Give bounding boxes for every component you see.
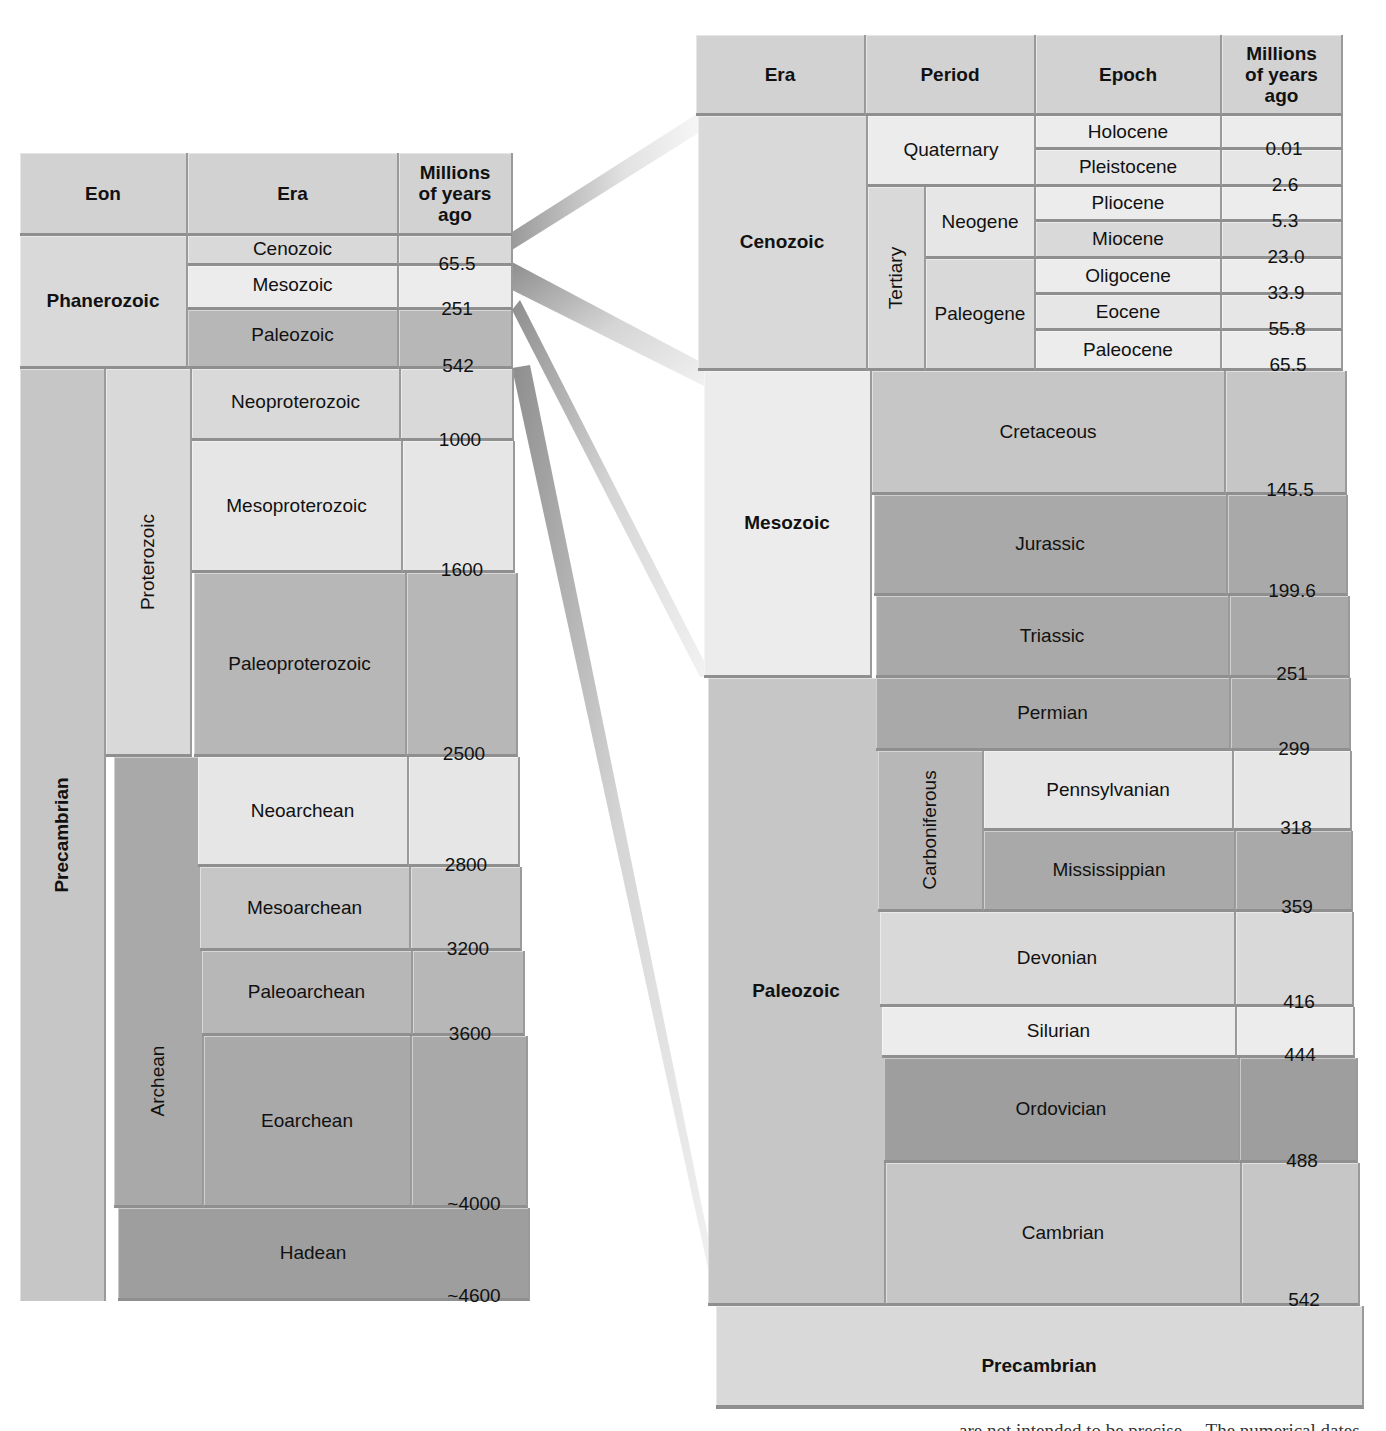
mya-cretaceous — [1226, 371, 1347, 495]
boundary-3600: 3600 — [449, 1023, 491, 1045]
period-carboniferous: Carboniferous — [878, 751, 984, 912]
epoch-holocene-label: Holocene — [1088, 121, 1168, 143]
period-mississippian-label: Mississippian — [1053, 859, 1166, 881]
header-mya-right-label: Millions of years ago — [1237, 43, 1327, 106]
period-jurassic-label: Jurassic — [1015, 533, 1085, 555]
period-permian-label: Permian — [1017, 702, 1088, 724]
mya-cambrian — [1242, 1163, 1360, 1306]
epoch-eocene-label: Eocene — [1096, 301, 1160, 323]
era-paleozoic-right: Paleozoic — [708, 678, 886, 1306]
caption-text: …are not intended to be precise… The num… — [940, 1420, 1360, 1431]
era-cenozoic-right-label: Cenozoic — [740, 231, 824, 253]
era-eoarchean: Eoarchean — [204, 1036, 412, 1208]
subeon-archean: Archean — [114, 757, 204, 1208]
boundary-318: 318 — [1280, 817, 1312, 839]
boundary-444: 444 — [1284, 1044, 1316, 1066]
boundary-1000: 1000 — [439, 429, 481, 451]
mya-ordovician — [1240, 1058, 1358, 1163]
era-cenozoic: Cenozoic — [188, 236, 399, 266]
header-period-label: Period — [920, 64, 979, 85]
boundary-65-5-right: 65.5 — [1270, 354, 1307, 376]
era-neoarchean: Neoarchean — [198, 757, 409, 867]
era-cenozoic-label: Cenozoic — [253, 238, 332, 260]
period-neogene: Neogene — [926, 187, 1036, 259]
era-neoproterozoic-label: Neoproterozoic — [231, 391, 360, 413]
period-cretaceous: Cretaceous — [872, 371, 1226, 495]
era-paleozoic-label: Paleozoic — [251, 324, 333, 346]
header-period: Period — [866, 35, 1036, 116]
era-mesozoic-label: Mesozoic — [252, 274, 332, 296]
era-mesozoic: Mesozoic — [188, 266, 399, 310]
period-cambrian-label: Cambrian — [1022, 1222, 1104, 1244]
era-paleoproterozoic-label: Paleoproterozoic — [228, 653, 371, 675]
eon-phanerozoic: Phanerozoic — [20, 236, 188, 369]
epoch-pliocene-label: Pliocene — [1092, 192, 1165, 214]
boundary-145-5: 145.5 — [1266, 479, 1314, 501]
era-mesozoic-right: Mesozoic — [704, 371, 872, 678]
mya-paleoproterozoic — [407, 573, 518, 757]
header-mya-label: Millions of years ago — [410, 162, 500, 225]
period-neogene-label: Neogene — [941, 211, 1018, 233]
period-jurassic: Jurassic — [874, 495, 1228, 596]
eon-precambrian: Precambrian — [20, 369, 106, 1301]
period-devonian-label: Devonian — [1017, 947, 1097, 969]
boundary-488: 488 — [1286, 1150, 1318, 1172]
header-epoch: Epoch — [1036, 35, 1222, 116]
epoch-paleocene: Paleocene — [1036, 331, 1222, 371]
era-paleozoic: Paleozoic — [188, 310, 399, 369]
eon-phanerozoic-label: Phanerozoic — [47, 290, 160, 312]
era-paleoproterozoic: Paleoproterozoic — [194, 573, 407, 757]
boundary-542-right: 542 — [1288, 1289, 1320, 1311]
header-era-right-label: Era — [765, 64, 796, 85]
boundary-0-01: 0.01 — [1266, 138, 1303, 160]
era-paleozoic-right-label: Paleozoic — [752, 980, 840, 1002]
boundary-2800: 2800 — [445, 854, 487, 876]
subeon-archean-label: Archean — [147, 1046, 169, 1117]
boundary-55-8: 55.8 — [1269, 318, 1306, 340]
period-paleogene-label: Paleogene — [935, 303, 1026, 325]
period-triassic: Triassic — [876, 596, 1230, 678]
era-mesoarchean-label: Mesoarchean — [247, 897, 362, 919]
boundary-23-0: 23.0 — [1268, 246, 1305, 268]
period-ordovician: Ordovician — [884, 1058, 1240, 1163]
era-mesoproterozoic-label: Mesoproterozoic — [226, 495, 366, 517]
epoch-miocene-label: Miocene — [1092, 228, 1164, 250]
caption-fragment: …are not intended to be precise… The num… — [940, 1420, 1360, 1431]
era-mesoproterozoic: Mesoproterozoic — [192, 441, 403, 573]
header-era-right: Era — [696, 35, 866, 116]
era-mesozoic-right-label: Mesozoic — [744, 512, 830, 534]
mya-eoarchean — [412, 1036, 528, 1208]
era-paleoarchean-label: Paleoarchean — [248, 981, 365, 1003]
period-quaternary-label: Quaternary — [903, 139, 998, 161]
period-silurian-label: Silurian — [1027, 1020, 1090, 1042]
period-pennsylvanian-label: Pennsylvanian — [1046, 779, 1170, 801]
boundary-2500: 2500 — [443, 743, 485, 765]
header-eon-label: Eon — [85, 183, 121, 204]
era-cenozoic-right: Cenozoic — [698, 116, 868, 371]
period-tertiary-label: Tertiary — [885, 246, 907, 308]
header-eon: Eon — [20, 153, 188, 236]
boundary-3200: 3200 — [447, 938, 489, 960]
header-era: Era — [188, 153, 399, 236]
boundary-4600: ~4600 — [447, 1285, 500, 1307]
epoch-oligocene-label: Oligocene — [1085, 265, 1171, 287]
boundary-251: 251 — [441, 298, 473, 320]
period-devonian: Devonian — [880, 912, 1236, 1007]
header-era-label: Era — [277, 183, 308, 204]
boundary-1600: 1600 — [441, 559, 483, 581]
boundary-359: 359 — [1281, 896, 1313, 918]
epoch-paleocene-label: Paleocene — [1083, 339, 1173, 361]
epoch-pleistocene-label: Pleistocene — [1079, 156, 1177, 178]
epoch-miocene: Miocene — [1036, 222, 1222, 259]
period-paleogene: Paleogene — [926, 259, 1036, 371]
era-neoarchean-label: Neoarchean — [251, 800, 355, 822]
period-cambrian: Cambrian — [886, 1163, 1242, 1306]
mya-mesoproterozoic — [403, 441, 515, 573]
period-triassic-label: Triassic — [1020, 625, 1085, 647]
period-mississippian: Mississippian — [984, 831, 1236, 912]
period-cretaceous-label: Cretaceous — [999, 421, 1096, 443]
eon-precambrian-label: Precambrian — [51, 777, 73, 892]
boundary-199-6: 199.6 — [1268, 580, 1316, 602]
boundary-542: 542 — [442, 355, 474, 377]
epoch-holocene: Holocene — [1036, 116, 1222, 150]
